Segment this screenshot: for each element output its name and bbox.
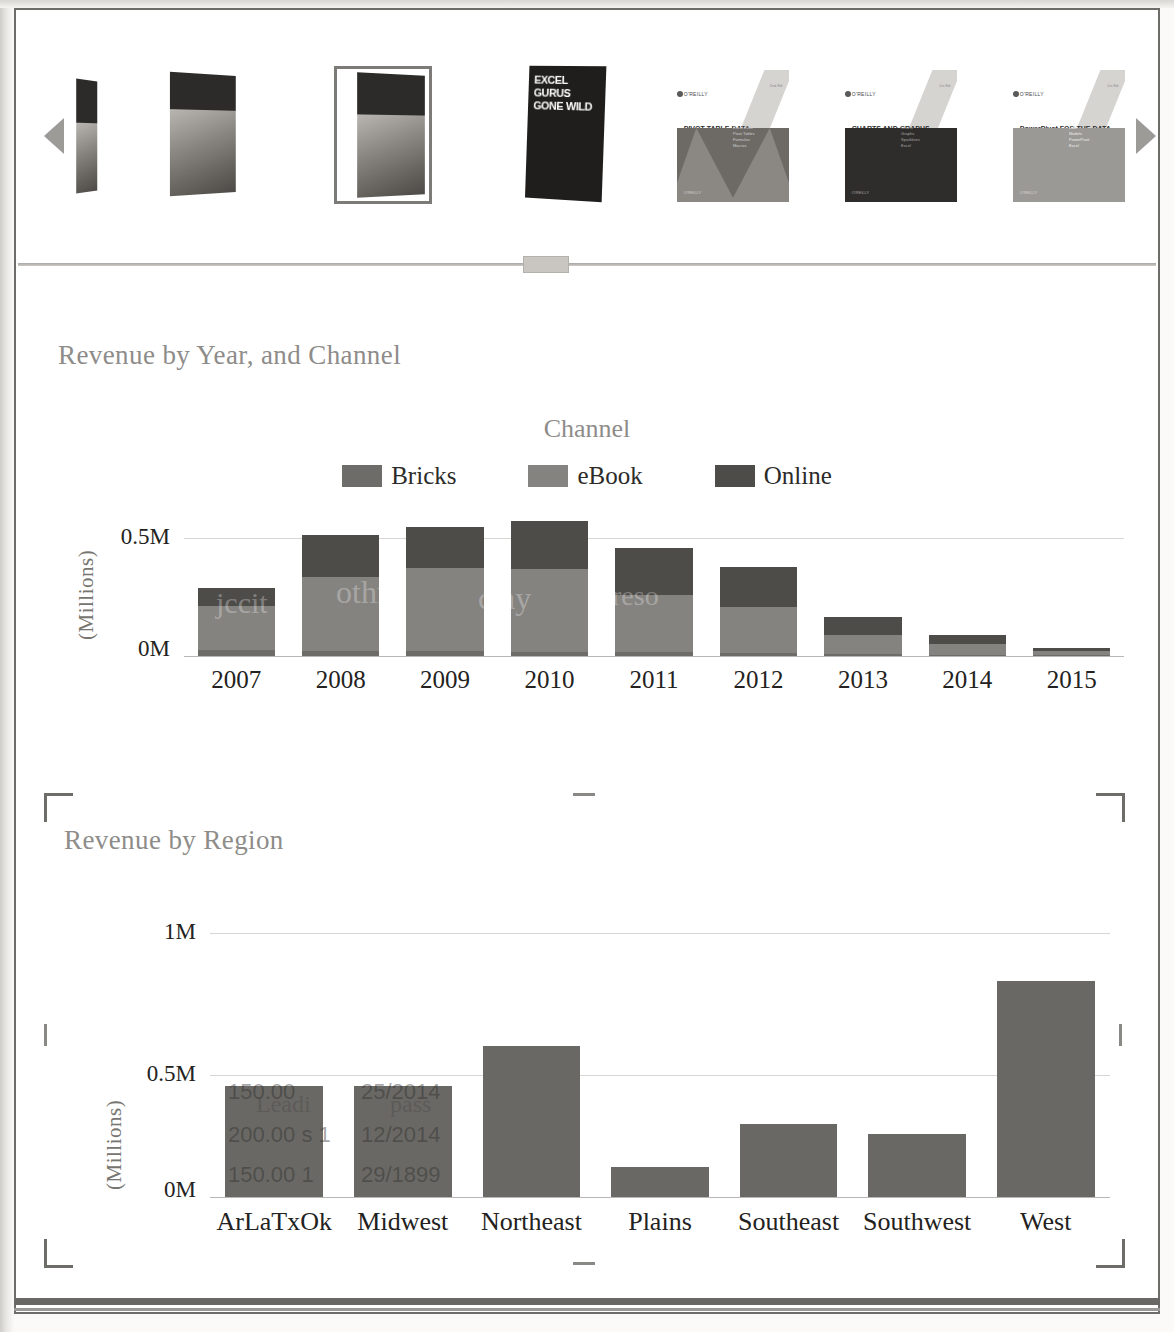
book-cover-art: O'REILLY 1st Ed PowerPivot FOR THE DATA … — [1013, 70, 1125, 202]
chart1-bar-2013[interactable] — [824, 617, 901, 656]
chart2-xtick-Plains: Plains — [596, 1207, 725, 1237]
chart1-legend-title: Channel — [18, 414, 1156, 444]
chart1-segment-2012-Online — [720, 567, 797, 607]
book-cover-art: EXCEL GURUS GONE WILD — [525, 66, 606, 203]
legend-item-online[interactable]: Online — [715, 462, 832, 490]
chart1-xtick-2015: 2015 — [1020, 666, 1124, 694]
edition-label: 1st Ed — [1107, 83, 1118, 88]
chart1-xtick-2012: 2012 — [706, 666, 810, 694]
chart1-xtick-2009: 2009 — [393, 666, 497, 694]
publisher-label: O'REILLY — [1020, 91, 1044, 97]
chart2-bar-Plains[interactable] — [611, 1167, 709, 1197]
chart1-bar-2011[interactable] — [615, 548, 692, 656]
selection-handle-bottom-center[interactable] — [573, 1262, 595, 1265]
chart1-segment-2014-Bricks — [929, 655, 1006, 657]
chart2-title: Revenue by Region — [64, 825, 284, 856]
chart1-title: Revenue by Year, and Channel — [58, 340, 401, 371]
carousel-next-arrow-icon[interactable] — [1136, 118, 1156, 154]
scan-edge-left — [0, 0, 14, 1332]
chart1-segment-2012-Bricks — [720, 653, 797, 656]
chart1-bar-2007[interactable] — [198, 588, 275, 656]
chart2-bar-West[interactable] — [997, 981, 1095, 1197]
chart1-segment-2008-Bricks — [302, 651, 379, 656]
chart2-bar-Southeast[interactable] — [740, 1124, 838, 1197]
chart1-segment-2008-eBook — [302, 577, 379, 651]
splitter-line — [18, 263, 1156, 266]
book-cover-art: O'REILLY 1st Ed CHARTS AND GRAPHS Charts… — [845, 70, 957, 202]
chart1-bar-2010[interactable] — [511, 521, 588, 656]
carousel-book-2[interactable] — [170, 72, 236, 196]
chart1-axis-baseline — [184, 656, 1124, 657]
frame-bottom-rule-secondary — [14, 1308, 1160, 1311]
selection-handle-bottom-left[interactable] — [44, 1239, 73, 1268]
chart1-bar-2012[interactable] — [720, 567, 797, 656]
chart1-segment-2015-Online — [1033, 648, 1110, 651]
chart1-xtick-2008: 2008 — [288, 666, 392, 694]
chart2-bar-Northeast[interactable] — [483, 1046, 581, 1197]
chart1-segment-2014-Online — [929, 635, 1006, 644]
legend-swatch-online — [715, 465, 755, 487]
book-cover-art — [170, 72, 236, 196]
chart1-segment-2011-Online — [615, 548, 692, 595]
chart1-segment-2015-eBook — [1033, 651, 1110, 655]
selection-handle-top-right[interactable] — [1096, 793, 1125, 822]
chart1-xtick-2010: 2010 — [497, 666, 601, 694]
chart1-xtick-2014: 2014 — [915, 666, 1019, 694]
horizontal-splitter[interactable] — [18, 256, 1156, 272]
chart1-segment-2013-Online — [824, 617, 901, 635]
legend-label-bricks: Bricks — [391, 462, 456, 490]
chart1-bar-2014[interactable] — [929, 635, 1006, 656]
chart1-bar-2008[interactable] — [302, 535, 379, 656]
chart2-plot-area[interactable] — [210, 933, 1110, 1197]
carousel-book-1[interactable] — [76, 79, 97, 194]
selection-handle-bottom-right[interactable] — [1096, 1239, 1125, 1268]
legend-swatch-bricks — [342, 465, 382, 487]
chart1-plot-area[interactable] — [184, 510, 1124, 656]
chart1-segment-2010-Online — [511, 521, 588, 569]
carousel-book-3-selected[interactable] — [357, 72, 425, 198]
chart2-bar-Southwest[interactable] — [868, 1134, 966, 1197]
chart1-segment-2011-Bricks — [615, 652, 692, 656]
legend-item-bricks[interactable]: Bricks — [342, 462, 456, 490]
chart1-segment-2013-eBook — [824, 635, 901, 654]
splitter-grip-handle[interactable] — [523, 256, 569, 273]
scanned-page: EXCEL GURUS GONE WILD O'REILLY 2nd Ed PI… — [0, 0, 1174, 1332]
chart2-ytick-0.5M: 0.5M — [110, 1061, 196, 1087]
carousel-prev-arrow-icon[interactable] — [44, 118, 64, 154]
chart1-xtick-2011: 2011 — [602, 666, 706, 694]
chart-revenue-by-region[interactable]: Revenue by Region (Millions) 1M 0.5M 0M … — [18, 779, 1156, 1289]
chart1-segment-2013-Bricks — [824, 654, 901, 656]
chart1-ytick-0.5M: 0.5M — [88, 524, 170, 550]
edition-label: 2nd Ed — [770, 83, 783, 88]
chart1-segment-2014-eBook — [929, 644, 1006, 654]
chart2-xtick-West: West — [981, 1207, 1110, 1237]
selection-handle-top-center[interactable] — [573, 793, 595, 796]
chart1-xtick-2013: 2013 — [811, 666, 915, 694]
chart1-xtick-2007: 2007 — [184, 666, 288, 694]
carousel-book-7[interactable]: O'REILLY 1st Ed PowerPivot FOR THE DATA … — [1013, 70, 1125, 202]
chart2-bar-Midwest[interactable] — [354, 1086, 452, 1197]
chart-revenue-by-year-channel[interactable]: Revenue by Year, and Channel Channel Bri… — [18, 274, 1156, 704]
carousel-book-4[interactable]: EXCEL GURUS GONE WILD — [525, 66, 606, 203]
book-cover-title: EXCEL GURUS GONE WILD — [533, 74, 600, 115]
chart2-axis-baseline — [210, 1197, 1110, 1198]
selection-handle-top-left[interactable] — [44, 793, 73, 822]
scan-edge-top — [0, 0, 1174, 8]
chart1-bar-2015[interactable] — [1033, 648, 1110, 656]
book-cover-art — [357, 72, 425, 198]
selection-handle-middle-right[interactable] — [1119, 1024, 1122, 1046]
chart2-xtick-Midwest: Midwest — [339, 1207, 468, 1237]
book-carousel[interactable]: EXCEL GURUS GONE WILD O'REILLY 2nd Ed PI… — [18, 12, 1156, 255]
carousel-book-5[interactable]: O'REILLY 2nd Ed PIVOT TABLE DATA CRUNCHI… — [677, 70, 789, 202]
chart1-segment-2007-Online — [198, 588, 275, 606]
legend-item-ebook[interactable]: eBook — [528, 462, 642, 490]
chart2-xtick-ArLaTxOk: ArLaTxOk — [210, 1207, 339, 1237]
chart1-bar-2009[interactable] — [406, 527, 483, 656]
chart1-segment-2008-Online — [302, 535, 379, 577]
carousel-book-6[interactable]: O'REILLY 1st Ed CHARTS AND GRAPHS Charts… — [845, 70, 957, 202]
selection-handle-middle-left[interactable] — [44, 1024, 47, 1046]
legend-label-online: Online — [764, 462, 832, 490]
legend-label-ebook: eBook — [577, 462, 642, 490]
chart1-segment-2009-eBook — [406, 568, 483, 651]
chart2-bar-ArLaTxOk[interactable] — [225, 1086, 323, 1197]
